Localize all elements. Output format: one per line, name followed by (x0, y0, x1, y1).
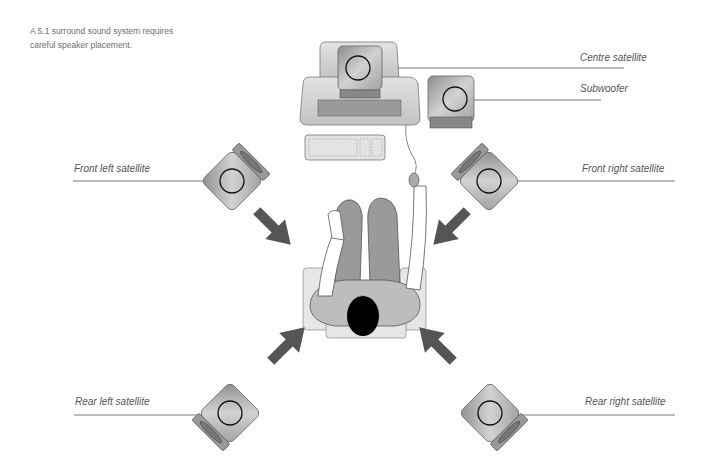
arrow-front-left (247, 201, 301, 255)
rear-right-satellite-speaker (459, 382, 528, 451)
front-right-satellite-speaker (451, 143, 520, 212)
centre-satellite-speaker (338, 46, 382, 98)
rear-left-satellite-speaker (192, 382, 261, 451)
mouse-cable (406, 124, 417, 178)
person-seated (303, 173, 426, 338)
mouse (409, 173, 419, 187)
arrow-front-right (423, 201, 477, 255)
diagram (0, 0, 709, 471)
keyboard (305, 135, 385, 160)
front-left-satellite-speaker (201, 143, 270, 212)
subwoofer-speaker (428, 76, 474, 128)
